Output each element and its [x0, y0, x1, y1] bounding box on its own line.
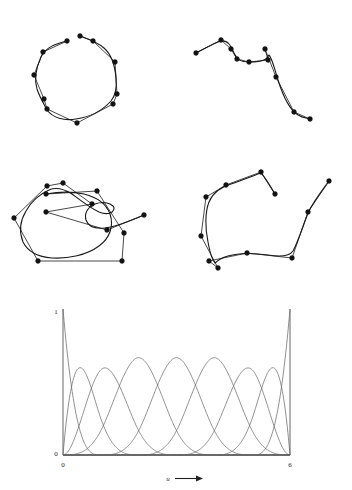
control-polygon	[14, 183, 144, 261]
panel-s-curve-bspline	[176, 0, 352, 155]
letter-g-bspline-svg	[0, 155, 176, 295]
basis-function-plot: 1 0 0 6 u	[0, 295, 352, 490]
x-axis-name-label: u	[166, 475, 170, 483]
basis-curve-N1	[63, 368, 290, 455]
bspline-basis-chart: 1 0 0 6 u	[0, 295, 352, 490]
control-polygon	[201, 172, 329, 268]
closed-loop-bspline-svg	[0, 0, 176, 155]
control-points	[194, 38, 313, 122]
panel-closed-shape-bspline	[176, 155, 352, 295]
panel-closed-loop-bspline	[0, 0, 176, 155]
basis-curve-N0	[63, 309, 290, 455]
control-polygon	[196, 40, 310, 119]
basis-curve-group	[63, 309, 290, 455]
basis-curve-N7	[63, 368, 290, 455]
x-axis-end-label: 6	[288, 461, 292, 469]
bspline-figure: 1 0 0 6 u	[0, 0, 352, 490]
bspline-curve	[21, 189, 144, 259]
control-points	[32, 34, 120, 126]
closed-shape-bspline-svg	[176, 155, 352, 295]
s-curve-bspline-svg	[176, 0, 352, 155]
basis-curve-N2	[63, 368, 290, 455]
y-axis-zero-label: 0	[54, 450, 58, 458]
bspline-curve	[196, 41, 310, 119]
basis-curve-N8	[63, 309, 290, 455]
y-axis-top-label: 1	[54, 308, 58, 316]
basis-curve-N6	[63, 368, 290, 455]
x-axis-zero-label: 0	[61, 461, 65, 469]
panel-letter-g-bspline	[0, 155, 176, 295]
x-axis-arrow-icon	[175, 476, 203, 482]
